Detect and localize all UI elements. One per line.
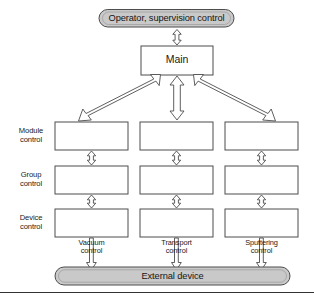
connector-device-external-transport-icon [172,238,182,270]
connector-main-module-transport-icon [170,76,184,120]
main-box[interactable] [141,46,213,75]
grid-box-module-transport[interactable] [140,122,213,150]
grid-box-module-sputtering[interactable] [225,122,298,150]
connector-main-module-sputtering-icon [194,75,276,122]
grid-box-device-vacuum[interactable] [55,209,128,237]
connector-module-group-transport-icon [172,151,180,165]
connector-main-module-vacuum-icon [79,75,161,122]
diagram-canvas: Operator, supervision control Main Modul… [0,0,314,301]
connector-group-device-sputtering-icon [257,195,265,208]
diagram-graphics [0,0,314,301]
grid-box-group-vacuum[interactable] [55,166,128,194]
connector-group-device-vacuum-icon [87,195,95,208]
connector-module-group-sputtering-icon [257,151,265,165]
grid-box-group-transport[interactable] [140,166,213,194]
connector-device-external-sputtering-icon [257,238,267,270]
connector-device-external-vacuum-icon [87,238,97,270]
grid-box-group-sputtering[interactable] [225,166,298,194]
grid-box-device-transport[interactable] [140,209,213,237]
grid-box-device-sputtering[interactable] [225,209,298,237]
connector-group-device-transport-icon [172,195,180,208]
grid-box-module-vacuum[interactable] [55,122,128,150]
connector-operator-main-icon [173,30,181,46]
connector-module-group-vacuum-icon [87,151,95,165]
